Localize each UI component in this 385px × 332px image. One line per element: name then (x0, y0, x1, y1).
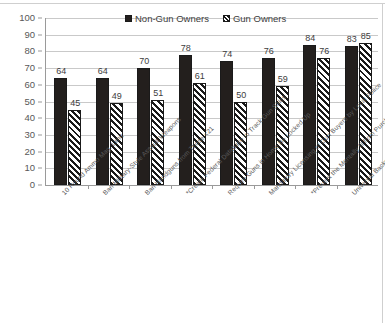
y-tick-label-100: 100 (19, 13, 35, 23)
y-tick-label-50: 50 (24, 97, 35, 107)
bar-value-label: 76 (261, 47, 277, 56)
legend-entry-gun-owners: Gun Owners (223, 13, 286, 24)
bar-value-label: 49 (109, 92, 125, 101)
bar-value-label: 74 (219, 50, 235, 59)
bar-value-label: 78 (178, 44, 194, 53)
y-tick-label-20: 20 (24, 147, 35, 157)
legend-entry-non-gun-owners: Non-Gun Owners (125, 13, 209, 24)
bar-non-gun-owners (137, 68, 150, 185)
bar-value-label: 50 (233, 91, 249, 100)
bar-gun-owners (317, 58, 330, 185)
y-tick-mark-50 (38, 101, 42, 102)
bar-group: 6445 (54, 18, 81, 185)
chart-legend: Non-Gun Owners Gun Owners (125, 13, 286, 24)
y-tick-label-60: 60 (24, 80, 35, 90)
bar-non-gun-owners (220, 61, 233, 185)
bar-chart: 1009080706050403020100 64456449705178617… (0, 0, 385, 332)
x-axis-category-labels: 10 Round Ammo Mag. LimitBan Military-Sty… (0, 186, 385, 332)
y-tick-mark-80 (38, 51, 42, 52)
y-tick-label-80: 80 (24, 47, 35, 57)
hatched-square-icon (223, 15, 230, 22)
bar-value-label: 51 (150, 89, 166, 98)
x-axis-separator (337, 185, 338, 189)
bar-value-label: 84 (302, 34, 318, 43)
y-tick-mark-70 (38, 68, 42, 69)
bar-non-gun-owners (96, 78, 109, 185)
y-tick-mark-90 (38, 34, 42, 35)
y-tick-label-40: 40 (24, 113, 35, 123)
y-tick-mark-30 (38, 134, 42, 135)
legend-label-non-gun-owners: Non-Gun Owners (135, 13, 209, 24)
bar-value-label: 64 (95, 67, 111, 76)
y-tick-label-30: 30 (24, 130, 35, 140)
y-tick-mark-10 (38, 168, 42, 169)
bar-gun-owners (359, 43, 372, 185)
y-tick-label-70: 70 (24, 63, 35, 73)
x-axis-separator (171, 185, 172, 189)
y-tick-mark-60 (38, 84, 42, 85)
x-axis-separator (129, 185, 130, 189)
y-tick-label-10: 10 (24, 164, 35, 174)
x-axis-separator (88, 185, 89, 189)
bar-non-gun-owners (54, 78, 67, 185)
x-axis-separator (254, 185, 255, 189)
x-axis-separator (212, 185, 213, 189)
y-axis-tick-labels: 1009080706050403020100 (0, 18, 42, 185)
x-axis-separator (295, 185, 296, 189)
bar-value-label: 61 (192, 72, 208, 81)
legend-label-gun-owners: Gun Owners (233, 13, 286, 24)
chart-frame-top-border (0, 3, 385, 4)
solid-square-icon (125, 15, 132, 22)
y-tick-label-90: 90 (24, 30, 35, 40)
bar-value-label: 85 (358, 32, 374, 41)
y-tick-mark-20 (38, 151, 42, 152)
y-tick-mark-40 (38, 118, 42, 119)
bar-value-label: 64 (53, 67, 69, 76)
bar-value-label: 70 (136, 57, 152, 66)
bar-value-label: 76 (316, 47, 332, 56)
y-tick-mark-100 (38, 18, 42, 19)
bar-value-label: 59 (275, 75, 291, 84)
bar-value-label: 45 (67, 99, 83, 108)
